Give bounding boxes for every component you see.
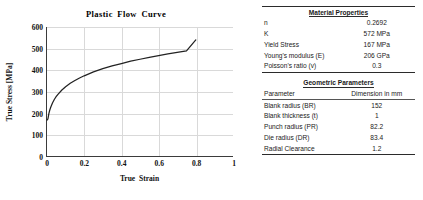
table-row: n0.2692	[262, 18, 415, 29]
table-row: Die radius (DR)83.4	[262, 132, 415, 143]
row-value: 83.4	[339, 132, 416, 143]
y-tick-label: 300	[32, 88, 43, 97]
table-row: Punch radius (PR)82.2	[262, 122, 415, 133]
row-label: Die radius (DR)	[262, 132, 339, 143]
row-value: 1	[339, 111, 416, 122]
figure-root: Plastic Flow Curve True Stress [MPa] Tru…	[0, 0, 423, 200]
x-tick-label: 0.6	[155, 159, 164, 168]
row-label: Punch radius (PR)	[262, 122, 339, 133]
row-value: 0.2692	[339, 18, 416, 29]
row-value: 1.2	[339, 143, 416, 154]
x-tick-label: 0.4	[117, 159, 126, 168]
geometric-header-dimension: Dimension in mm	[339, 88, 416, 99]
row-label: n	[262, 18, 339, 29]
y-tick-label: 0	[39, 153, 43, 162]
row-label: Blank radius (BR)	[262, 100, 339, 111]
geometric-caption-row: Geometric Parameters	[262, 78, 415, 89]
table-row: Young's modulus (E)206 GPa	[262, 50, 415, 61]
material-caption-row: Material Properties	[262, 7, 415, 18]
row-value: 0.3	[339, 61, 416, 72]
plastic-flow-curve-chart: Plastic Flow Curve True Stress [MPa] Tru…	[0, 0, 252, 200]
x-tick-label: 0.2	[80, 159, 89, 168]
material-properties-table: Material Properties n0.2692K572 MPaYield…	[262, 6, 415, 73]
y-tick-label: 200	[32, 109, 43, 118]
geometric-parameters-table: Geometric Parameters Parameter Dimension…	[262, 78, 415, 155]
table-row: Yield Stress167 MPa	[262, 39, 415, 50]
x-tick-label: 1	[232, 159, 236, 168]
row-value: 82.2	[339, 122, 416, 133]
parameters-tables: Material Properties n0.2692K572 MPaYield…	[252, 0, 423, 200]
row-label: Young's modulus (E)	[262, 50, 339, 61]
table-row: Blank radius (BR)152	[262, 100, 415, 111]
y-tick-label: 100	[32, 131, 43, 140]
x-tick-label: 0.8	[192, 159, 201, 168]
row-label: Radial Clearance	[262, 143, 339, 154]
geometric-table-caption: Geometric Parameters	[262, 78, 415, 89]
x-axis-label: True Strain	[46, 174, 233, 183]
row-label: Blank thickness (t)	[262, 111, 339, 122]
y-tick-label: 500	[32, 44, 43, 53]
row-label: K	[262, 29, 339, 40]
table-row: Blank thickness (t)1	[262, 111, 415, 122]
row-label: Yield Stress	[262, 39, 339, 50]
row-label: Poisson's ratio (v)	[262, 61, 339, 72]
geometric-header-row: Parameter Dimension in mm	[262, 88, 415, 99]
y-tick-label: 600	[32, 23, 43, 32]
flow-curve-line	[47, 27, 233, 156]
row-value: 572 MPa	[339, 29, 416, 40]
table-row: Radial Clearance1.2	[262, 143, 415, 154]
row-value: 206 GPa	[339, 50, 416, 61]
plot-wrapper: True Stress [MPa] True Strain 0100200300…	[0, 0, 252, 200]
row-value: 167 MPa	[339, 39, 416, 50]
material-table-caption: Material Properties	[262, 7, 415, 18]
plot-area: 0100200300400500600 00.20.40.60.81	[46, 27, 233, 157]
x-tick-label: 0	[45, 159, 49, 168]
y-tick-label: 400	[32, 66, 43, 75]
material-rows-body: n0.2692K572 MPaYield Stress167 MPaYoung'…	[262, 18, 415, 72]
y-axis-label: True Stress [MPa]	[5, 63, 14, 121]
row-value: 152	[339, 100, 416, 111]
geometric-header-parameter: Parameter	[262, 88, 339, 99]
table-row: Poisson's ratio (v)0.3	[262, 61, 415, 72]
geometric-rows-body: Blank radius (BR)152Blank thickness (t)1…	[262, 100, 415, 155]
table-row: K572 MPa	[262, 29, 415, 40]
